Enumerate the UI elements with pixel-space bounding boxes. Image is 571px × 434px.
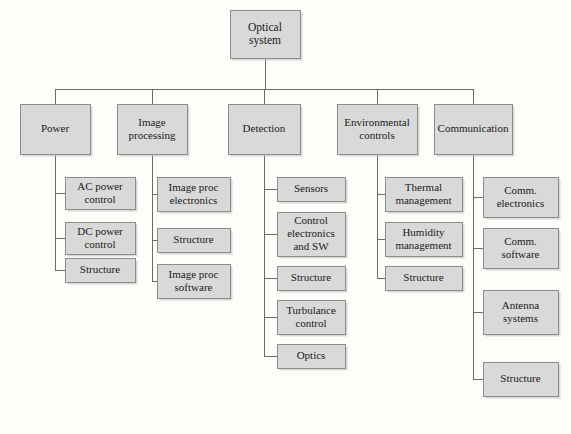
node-detection-structure[interactable]: Structure	[278, 267, 348, 293]
node-label: Detection	[243, 122, 286, 134]
node-label: Sensors	[294, 182, 328, 194]
node-label: Humiditymanagement	[395, 225, 451, 250]
wbs-diagram-canvas: OpticalsystemPowerImageprocessingDetecti…	[0, 0, 571, 434]
node-turbulance-control[interactable]: Turbulancecontrol	[278, 301, 348, 337]
node-label: Structure	[80, 263, 120, 275]
node-label: Optics	[297, 349, 326, 361]
node-label: Comm.software	[502, 234, 540, 259]
node-comm-electronics[interactable]: Comm.electronics	[484, 178, 561, 220]
node-thermal-management[interactable]: Thermalmanagement	[386, 178, 465, 214]
node-label: Antennasystems	[502, 298, 539, 323]
node-label: Structure	[173, 233, 213, 245]
node-humidity-management[interactable]: Humiditymanagement	[386, 223, 465, 259]
node-label: Communication	[438, 122, 509, 134]
node-label: Power	[41, 122, 69, 134]
node-label: Image procelectronics	[169, 180, 219, 205]
node-antenna-systems[interactable]: Antennasystems	[484, 291, 561, 337]
node-label: Structure	[403, 271, 443, 283]
node-image-processing[interactable]: Imageprocessing	[118, 105, 190, 157]
node-detection[interactable]: Detection	[229, 105, 303, 157]
node-dc-power-control[interactable]: DC powercontrol	[66, 223, 138, 257]
node-label: Opticalsystem	[248, 20, 282, 46]
wbs-tree-svg: OpticalsystemPowerImageprocessingDetecti…	[0, 0, 571, 434]
node-communication[interactable]: Communication	[435, 105, 515, 157]
node-label: Image procsoftware	[169, 267, 219, 292]
node-label: Structure	[500, 372, 540, 384]
node-optical-system[interactable]: Opticalsystem	[231, 11, 303, 61]
node-communication-structure[interactable]: Structure	[484, 363, 561, 399]
node-control-electronics-and-sw[interactable]: Controlelectronicsand SW	[278, 213, 348, 259]
node-label: Structure	[291, 271, 331, 283]
node-environmental-controls[interactable]: Environmentalcontrols	[338, 105, 420, 157]
node-power-structure[interactable]: Structure	[66, 259, 138, 285]
node-label: Controlelectronicsand SW	[287, 214, 335, 252]
node-image-proc-structure[interactable]: Structure	[158, 229, 233, 255]
node-environmental-structure[interactable]: Structure	[386, 267, 465, 293]
node-layer: OpticalsystemPowerImageprocessingDetecti…	[21, 11, 561, 399]
node-optics[interactable]: Optics	[278, 345, 348, 371]
node-power[interactable]: Power	[21, 105, 93, 157]
node-comm-software[interactable]: Comm.software	[484, 229, 561, 271]
node-image-proc-electronics[interactable]: Image procelectronics	[158, 178, 233, 214]
node-ac-power-control[interactable]: AC powercontrol	[66, 178, 138, 212]
node-sensors[interactable]: Sensors	[278, 178, 348, 204]
node-image-proc-software[interactable]: Image procsoftware	[158, 265, 233, 301]
